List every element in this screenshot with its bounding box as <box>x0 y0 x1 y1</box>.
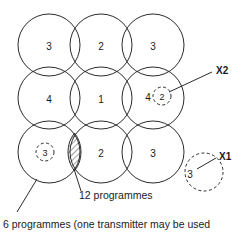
cell-label-r3c2: 2 <box>98 148 104 159</box>
diagram-canvas: 3 2 3 4 1 4 2 3 3 <box>0 0 245 234</box>
x1-callout: 3 X1 <box>185 151 232 192</box>
x1-leader-line <box>197 158 216 169</box>
hatched-overlap-lens <box>68 133 81 171</box>
small-dashed-cell-2: 2 <box>153 87 171 105</box>
cell-label-r2c3: 4 <box>145 92 151 103</box>
small-dashed-label-2: 2 <box>159 92 164 102</box>
cellular-coverage-diagram: 3 2 3 4 1 4 2 3 3 <box>0 0 245 234</box>
overlap-lens-shape <box>68 133 81 171</box>
x1-cell-value: 3 <box>187 169 193 180</box>
cell-label-r2c2: 1 <box>98 94 104 105</box>
cell-label-r3c3: 3 <box>150 148 156 159</box>
small-dashed-cell-3: 3 <box>36 143 54 161</box>
cell-label-r1c3: 3 <box>150 41 156 52</box>
cell-label-r1c2: 2 <box>98 41 104 52</box>
six-programmes-leader <box>17 179 37 212</box>
caption-12-programmes: 12 programmes <box>79 189 153 201</box>
x2-leader-line <box>169 72 212 92</box>
cell-label-r1c1: 3 <box>46 41 52 52</box>
cell-label-r2c1: 4 <box>46 94 52 105</box>
x1-label: X1 <box>219 151 232 162</box>
small-dashed-label-3: 3 <box>42 148 47 158</box>
caption-6-programmes: 6 programmes (one transmitter may be use… <box>3 218 210 230</box>
x2-callout: X2 <box>169 65 229 93</box>
x2-label: X2 <box>216 65 229 76</box>
